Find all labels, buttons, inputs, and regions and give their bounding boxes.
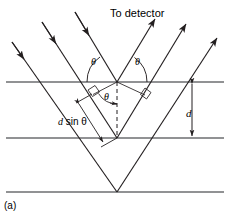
incident-ray-1-arrow: [75, 12, 89, 36]
d-sin-theta-label: d sin θ: [58, 117, 87, 127]
incident-ray-2-arrow: [42, 22, 56, 44]
perpendicular-right: [117, 82, 145, 95]
reflected-ray-1-to-detector: [117, 19, 155, 82]
incident-ray-3-arrow: [12, 42, 24, 59]
path-difference-construction: [93, 82, 145, 104]
reflected-ray-3: [117, 38, 217, 192]
theta-incident-label: θ: [91, 57, 96, 67]
theta-reflected-label: θ: [135, 57, 140, 67]
dsin-extension-lower: [101, 138, 117, 147]
to-detector-label: To detector: [110, 8, 164, 19]
crystal-planes-group: [6, 82, 224, 192]
panel-label: (a): [4, 201, 16, 211]
d-sin-theta-rest: sin θ: [63, 116, 87, 127]
theta-interior-label: θ: [104, 92, 109, 102]
incident-rays-group: [12, 12, 117, 192]
d-spacing-label: d: [186, 108, 192, 119]
dsin-extension-upper: [76, 94, 92, 103]
theta-arc-interior-arrow: [110, 103, 117, 104]
bragg-diffraction-figure: [0, 0, 230, 217]
reflected-rays-group: [117, 19, 217, 192]
reflected-ray-2: [117, 24, 186, 138]
